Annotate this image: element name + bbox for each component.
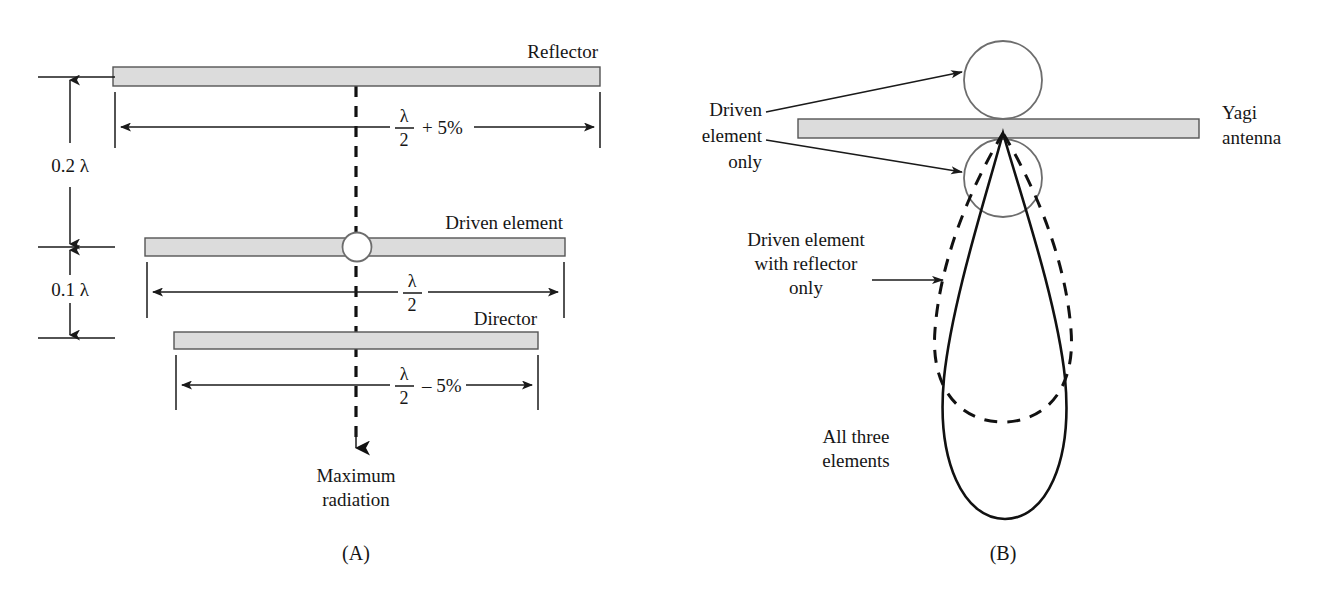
reflector-bar — [113, 67, 600, 86]
reflector-label: Reflector — [527, 41, 598, 62]
panel-a-and-b-canvas: 0.2 λ 0.1 λ λ 2 + 5% λ 2 — [0, 0, 1340, 592]
figure-root: 0.2 λ 0.1 λ λ 2 + 5% λ 2 — [0, 0, 1340, 592]
maximum-radiation-label-line2: radiation — [322, 489, 390, 510]
director-label: Director — [474, 308, 538, 329]
driven-element-only-line1: Driven — [709, 99, 762, 120]
yagi-antenna-bar — [798, 119, 1199, 138]
panel-b-caption: (B) — [990, 542, 1017, 565]
maximum-radiation-label-line1: Maximum — [316, 465, 395, 486]
leader-driven-element-only-upper — [766, 72, 962, 112]
all-three-elements-line2: elements — [822, 450, 890, 471]
director-bar — [174, 332, 538, 349]
director-frac-numerator: λ — [400, 364, 409, 384]
vertical-dimension-group: 0.2 λ 0.1 λ — [38, 77, 115, 338]
yagi-antenna-label-line1: Yagi — [1222, 102, 1257, 123]
reflector-length-dimension: λ 2 + 5% — [115, 92, 600, 150]
reflector-length-suffix: + 5% — [422, 117, 463, 138]
director-element — [174, 332, 538, 349]
reflector-only-line3: only — [789, 277, 823, 298]
yagi-antenna-label-line2: antenna — [1222, 127, 1282, 148]
yagi-antenna-element — [798, 119, 1199, 138]
dim-label-0p1-lambda: 0.1 λ — [51, 279, 90, 300]
dim-label-0p2-lambda: 0.2 λ — [51, 155, 90, 176]
director-length-dimension: λ 2 – 5% — [176, 355, 538, 410]
leader-driven-element-only-lower — [766, 140, 962, 172]
driven-frac-numerator: λ — [408, 271, 417, 291]
reflector-only-line1: Driven element — [747, 229, 865, 250]
director-frac-denominator: 2 — [400, 388, 409, 408]
driven-element-group — [145, 233, 565, 262]
driven-frac-denominator: 2 — [408, 295, 417, 315]
reflector-frac-numerator: λ — [400, 106, 409, 126]
director-length-suffix: – 5% — [421, 375, 462, 396]
driven-element-only-line2: element — [702, 125, 763, 146]
all-three-elements-line1: All three — [822, 426, 889, 447]
reflector-element — [113, 67, 600, 86]
reflector-frac-denominator: 2 — [400, 130, 409, 150]
feed-point-circle — [343, 233, 372, 262]
driven-element-label: Driven element — [445, 212, 563, 233]
reflector-only-line2: with reflector — [755, 253, 859, 274]
panel-a-caption: (A) — [342, 542, 370, 565]
pattern-lobe-back-circle — [964, 139, 1042, 217]
driven-element-only-line3: only — [728, 151, 762, 172]
pattern-lobe-front-circle — [964, 41, 1042, 119]
